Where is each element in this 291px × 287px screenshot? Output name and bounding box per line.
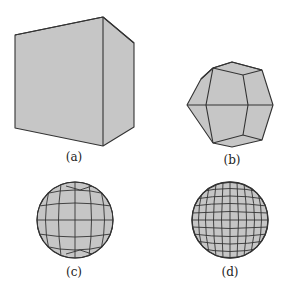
panel-c-sphere <box>37 182 113 258</box>
panel-b-polyhedron <box>187 62 273 147</box>
panel-a-label: (a) <box>66 150 83 164</box>
panel-a-cube <box>15 17 134 146</box>
panel-d-label: (d) <box>221 265 238 279</box>
figure-canvas <box>0 0 291 287</box>
panel-c-label: (c) <box>66 265 82 279</box>
panel-b-label: (b) <box>223 153 240 167</box>
panel-d-sphere <box>192 182 268 258</box>
